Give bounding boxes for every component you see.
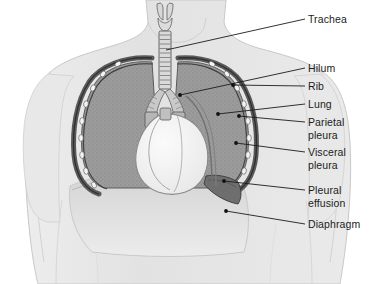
label-hilum: Hilum <box>308 62 335 75</box>
thorax-anatomy-illustration <box>0 0 377 284</box>
leader-dot-visceral-pleura <box>234 141 238 145</box>
leader-dot-rib <box>231 83 235 87</box>
label-visceral-pleura: Visceral pleura <box>308 146 346 171</box>
leader-dot-lung <box>216 112 220 116</box>
label-trachea: Trachea <box>308 13 347 26</box>
leader-dot-parietal-pleura <box>237 114 241 118</box>
label-parietal-pleura: Parietal pleura <box>308 116 344 141</box>
leader-dot-hilum <box>178 93 182 97</box>
leader-dot-pleural-effusion <box>222 179 226 183</box>
label-rib: Rib <box>308 80 324 93</box>
leader-dot-diaphragm <box>224 209 228 213</box>
figure-container: TracheaHilumRibLungParietal pleuraViscer… <box>0 0 377 284</box>
label-pleural-effusion: Pleural effusion <box>308 184 345 209</box>
label-lung: Lung <box>308 98 332 111</box>
label-diaphragm: Diaphragm <box>308 218 360 231</box>
